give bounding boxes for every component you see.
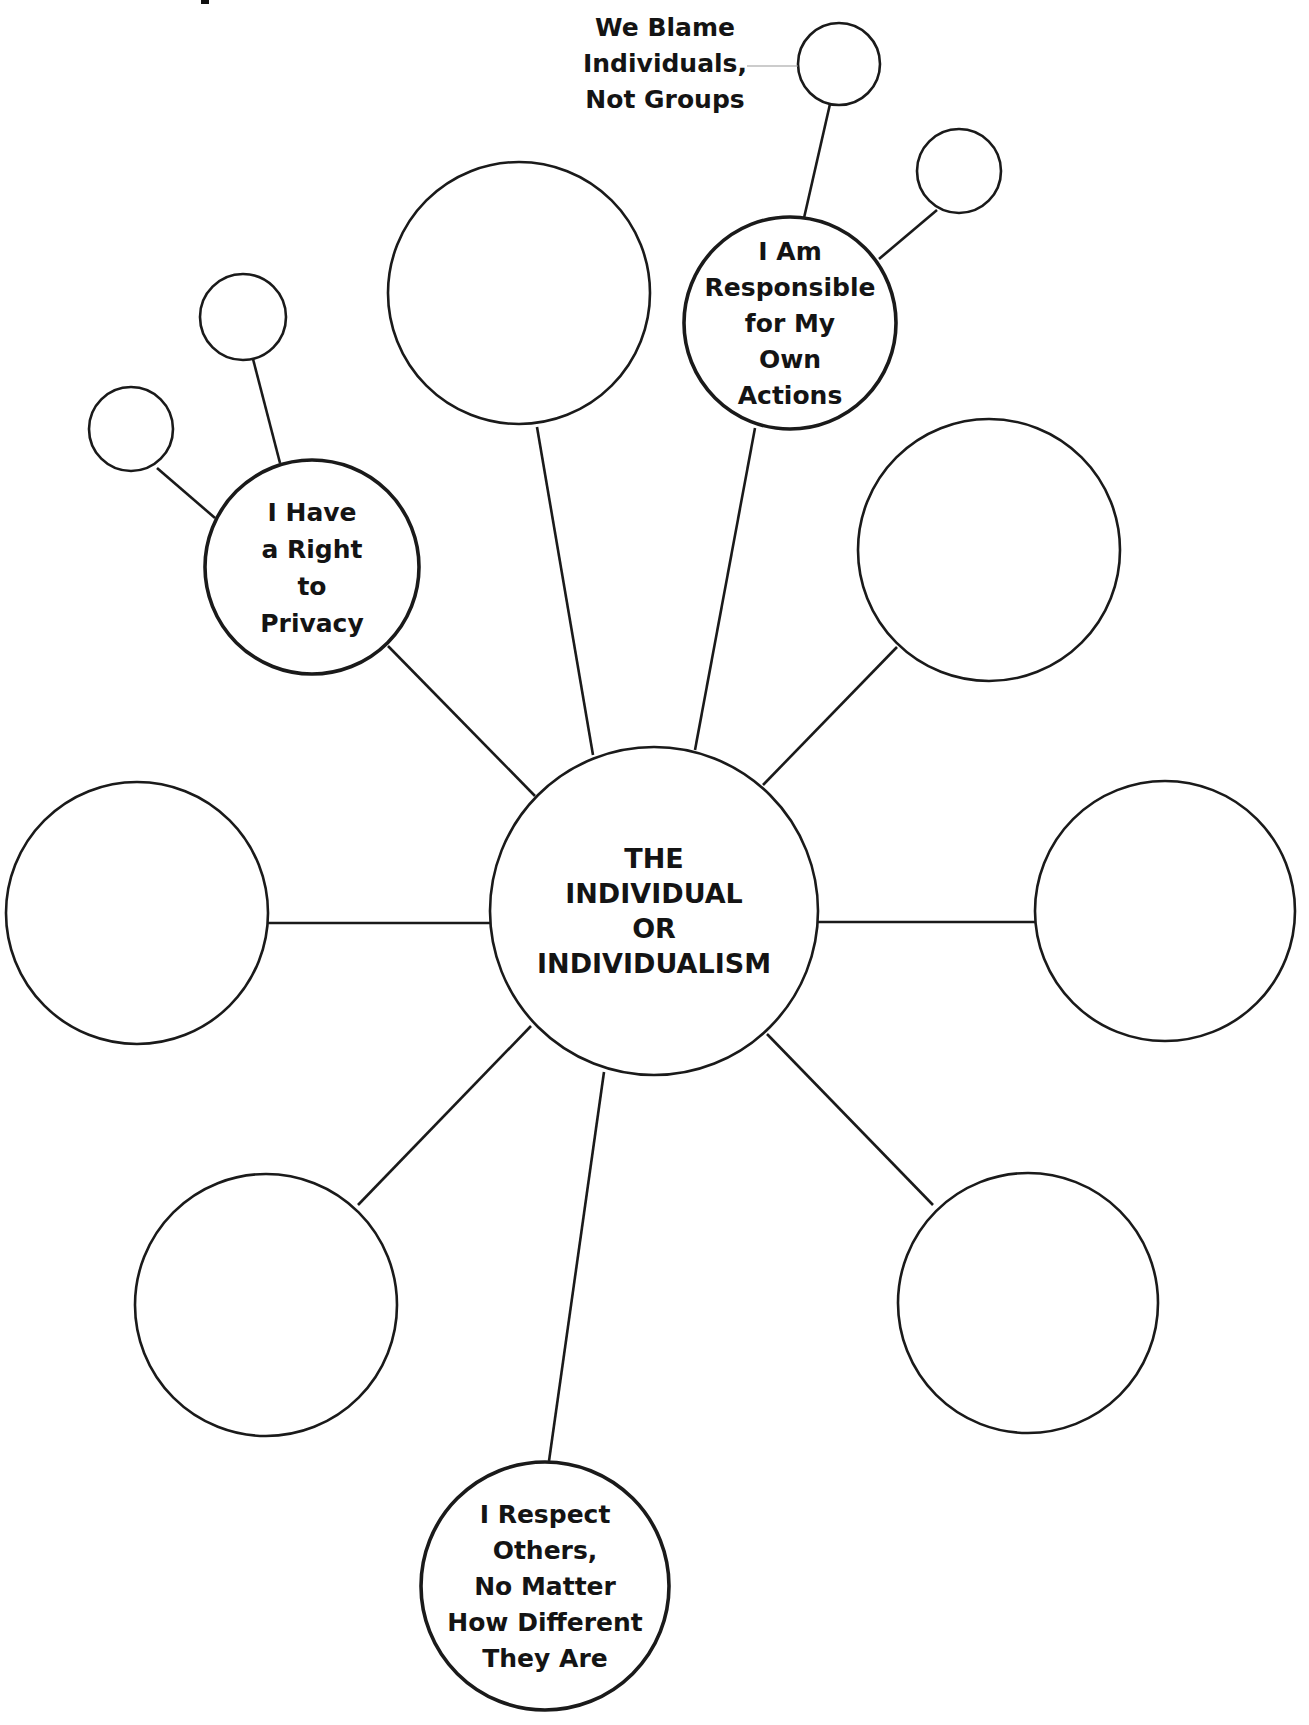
- empty-circle-upper-right[interactable]: [858, 419, 1120, 681]
- connector-center-to-bottom-right: [767, 1034, 933, 1205]
- empty-circle-left[interactable]: [6, 782, 268, 1044]
- center-topic-label-line: THE: [624, 843, 683, 874]
- node-responsible-label-line: I Am: [758, 237, 821, 266]
- connector-privacy-to-sub-2: [157, 468, 215, 518]
- node-responsible-label-line: for My: [745, 309, 835, 338]
- empty-circle-bottom-left[interactable]: [135, 1174, 397, 1436]
- connector-center-to-respect: [549, 1072, 604, 1461]
- node-respect-label-line: Others,: [493, 1536, 598, 1565]
- annotation-label-line: Not Groups: [585, 85, 744, 114]
- node-privacy-label-line: a Right: [261, 535, 362, 564]
- node-respect-label-line: I Respect: [480, 1500, 611, 1529]
- connector-responsible-to-sub-1: [804, 104, 830, 218]
- node-responsible-label-line: Responsible: [705, 273, 876, 302]
- connector-center-to-privacy: [388, 646, 535, 796]
- node-respect-label-line: They Are: [482, 1644, 607, 1673]
- empty-circle-top-large[interactable]: [388, 162, 650, 424]
- node-responsible-label-line: Own: [759, 345, 821, 374]
- annotation-label-line: Individuals,: [583, 49, 747, 78]
- center-topic-label-line: INDIVIDUALISM: [537, 948, 771, 979]
- connector-center-to-responsible: [695, 428, 755, 750]
- empty-circle-responsible-sub-1[interactable]: [798, 23, 880, 105]
- annotation-label-line: We Blame: [595, 13, 735, 42]
- node-privacy-label-line: I Have: [267, 498, 356, 527]
- empty-circle-right[interactable]: [1035, 781, 1295, 1041]
- node-respect-label-line: How Different: [447, 1608, 643, 1637]
- empty-circle-privacy-sub-1[interactable]: [200, 274, 286, 360]
- connector-privacy-to-sub-1: [253, 359, 280, 463]
- cropped-title-fragment: [201, 0, 209, 4]
- connector-center-to-bottom-left: [358, 1026, 531, 1205]
- node-privacy-circle: [205, 460, 419, 674]
- empty-circle-responsible-sub-2[interactable]: [917, 129, 1001, 213]
- concept-web-diagram: THEINDIVIDUALORINDIVIDUALISMI AmResponsi…: [0, 0, 1309, 1725]
- empty-circle-bottom-right[interactable]: [898, 1173, 1158, 1433]
- annotation-we-blame-label: We BlameIndividuals,Not Groups: [583, 13, 747, 114]
- example-annotation: We BlameIndividuals,Not Groups: [201, 0, 798, 114]
- center-topic-circle: [490, 747, 818, 1075]
- connector-center-to-top-large: [537, 427, 593, 755]
- node-responsible-label-line: Actions: [738, 381, 843, 410]
- center-topic-label-line: OR: [632, 913, 676, 944]
- node-privacy-label-line: Privacy: [260, 609, 364, 638]
- empty-circle-privacy-sub-2[interactable]: [89, 387, 173, 471]
- connector-responsible-to-sub-2: [879, 210, 937, 259]
- node-respect-label-line: No Matter: [474, 1572, 616, 1601]
- center-topic-label-line: INDIVIDUAL: [565, 878, 743, 909]
- connector-center-to-upper-right: [763, 647, 897, 785]
- node-privacy-label-line: to: [297, 572, 326, 601]
